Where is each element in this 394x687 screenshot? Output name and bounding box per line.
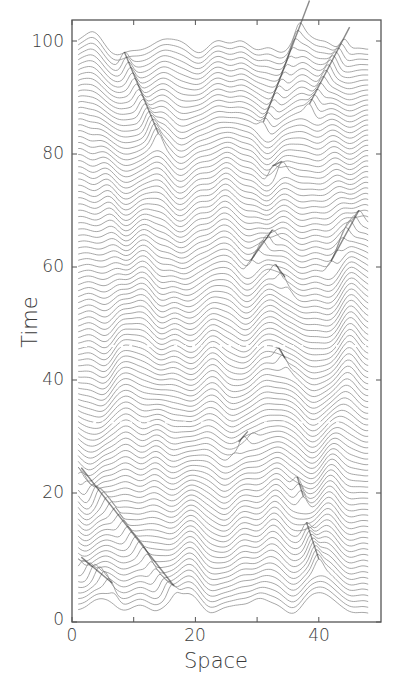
trace-line [78, 39, 368, 65]
trace-line [78, 546, 368, 574]
trace-line [78, 211, 368, 243]
soliton-tracks [75, 1, 368, 586]
trace-lines [78, 23, 368, 614]
trace-line [78, 312, 368, 338]
trace-line [78, 348, 368, 373]
soliton-6 [276, 264, 285, 277]
trace-line [78, 329, 368, 354]
trace-line [78, 104, 368, 127]
trace-line [78, 542, 368, 569]
trace-line [78, 207, 368, 232]
y-tick-label-40: 40 [20, 371, 64, 388]
trace-line [78, 157, 368, 181]
trace-line [78, 571, 368, 596]
trace-line [78, 201, 368, 226]
soliton-12 [239, 431, 248, 442]
trace-line [78, 379, 368, 403]
trace-line [78, 426, 368, 447]
y-tick-label-60: 60 [20, 258, 64, 275]
x-tick-label-20: 20 [175, 627, 215, 644]
y-tick-label-100: 100 [20, 33, 64, 50]
y-axis-label: Time [20, 292, 41, 352]
soliton-1 [81, 557, 112, 583]
x-tick-label-0: 0 [52, 627, 92, 644]
trace-line [78, 550, 368, 580]
trace-line [78, 534, 368, 557]
plot-area [0, 0, 394, 687]
trace-line [78, 264, 368, 291]
trace-line [78, 519, 368, 542]
trace-line [78, 384, 368, 408]
trace-line [78, 257, 368, 280]
y-tick-label-0: 0 [20, 611, 64, 628]
y-tick-label-80: 80 [20, 145, 64, 162]
trace-line [78, 112, 368, 134]
trace-line [78, 168, 368, 193]
soliton-3 [124, 52, 158, 133]
trace-line [78, 247, 368, 269]
trace-line [78, 554, 368, 585]
trace-line [78, 578, 368, 602]
trace-line [78, 366, 368, 391]
y-tick-label-20: 20 [20, 484, 64, 501]
trace-line [78, 324, 368, 349]
x-axis-label: Space [176, 651, 256, 672]
trace-line [78, 490, 368, 515]
waterfall-chart: 0 20 40 60 80 100 0 20 40 Space Time [0, 0, 394, 687]
trace-line [78, 23, 368, 55]
trace-line [78, 447, 368, 470]
x-tick-label-40: 40 [299, 627, 339, 644]
